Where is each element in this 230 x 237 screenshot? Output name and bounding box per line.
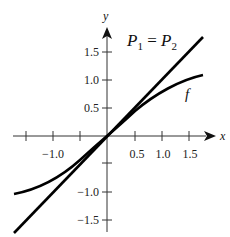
x-tick-label: 1.0 <box>156 147 171 161</box>
series-f-curve <box>14 75 203 194</box>
y-tick-label: 0.5 <box>84 101 99 115</box>
x-axis-label: x <box>219 129 226 143</box>
chart: −1.0 0.5 1.0 1.5 1.5 1.0 0.5 −1.0 −1.5 x… <box>0 0 230 237</box>
x-tick-label: 1.5 <box>183 147 198 161</box>
x-tick-label: −1.0 <box>42 147 64 161</box>
y-tick-label: −1.0 <box>77 185 99 199</box>
curve-label: f <box>185 86 191 102</box>
y-axis-label: y <box>102 9 109 23</box>
x-tick-label: 0.5 <box>130 147 145 161</box>
y-tick-label: 1.0 <box>84 73 99 87</box>
y-tick-label: 1.5 <box>84 45 99 59</box>
y-tick-label: −1.5 <box>77 213 99 227</box>
line-label: P1 = P2 <box>126 31 177 52</box>
